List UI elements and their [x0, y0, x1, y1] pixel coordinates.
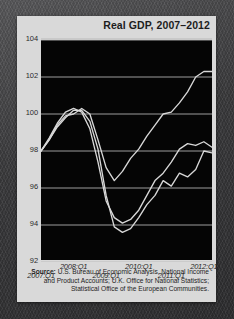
- source-text: U.S. Bureau of Economic Analysis, Nation…: [44, 268, 209, 292]
- y-tick-label: 94: [30, 219, 38, 228]
- source-note: Source: U.S. Bureau of Economic Analysis…: [25, 268, 209, 294]
- y-tick-label: 100: [26, 108, 38, 117]
- y-tick-label: 92: [30, 256, 38, 265]
- source-label: Source:: [31, 268, 56, 275]
- y-tick-label: 104: [26, 34, 38, 43]
- plot-area: [41, 38, 212, 260]
- chart-figure-panel: Real GDP, 2007–2012 92949698100102104 20…: [17, 16, 216, 302]
- plot-area-wrapper: 92949698100102104 2007:Q12008:Q12009:Q12…: [41, 38, 212, 260]
- y-tick-label: 102: [26, 71, 38, 80]
- line-chart-svg: [41, 40, 212, 262]
- y-tick-label: 98: [30, 145, 38, 154]
- chart-title: Real GDP, 2007–2012: [103, 19, 210, 31]
- y-tick-label: 96: [30, 182, 38, 191]
